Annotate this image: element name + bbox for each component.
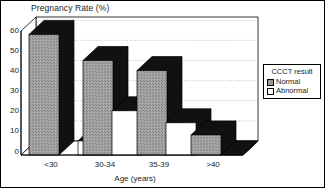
x-tick-30-34: 30-34 bbox=[77, 160, 133, 169]
x-tick-lt30: <30 bbox=[23, 160, 79, 169]
legend: CCCT result Normal Abnormal bbox=[263, 64, 321, 99]
white-swatch-icon bbox=[267, 88, 274, 95]
legend-item-normal: Normal bbox=[267, 78, 317, 86]
bar-normal-lt30 bbox=[29, 20, 74, 155]
legend-title: CCCT result bbox=[267, 67, 317, 76]
legend-label-abnormal: Abnormal bbox=[276, 87, 308, 95]
y-tick-20: 20 bbox=[2, 106, 19, 115]
y-tick-40: 40 bbox=[2, 66, 19, 75]
y-tick-10: 10 bbox=[2, 126, 19, 135]
hatched-gray-swatch-icon bbox=[267, 79, 274, 86]
x-tick-35-39: 35-39 bbox=[131, 160, 187, 169]
y-tick-60: 60 bbox=[2, 26, 19, 35]
y-tick-30: 30 bbox=[2, 86, 19, 95]
legend-label-normal: Normal bbox=[276, 78, 300, 86]
y-tick-50: 50 bbox=[2, 46, 19, 55]
y-tick-0: 0 bbox=[2, 147, 19, 156]
x-axis-title: Age (years) bbox=[70, 174, 200, 183]
chart-figure: Pregnancy Rate (%) bbox=[0, 0, 326, 189]
legend-item-abnormal: Abnormal bbox=[267, 87, 317, 95]
x-tick-gt40: >40 bbox=[185, 160, 241, 169]
